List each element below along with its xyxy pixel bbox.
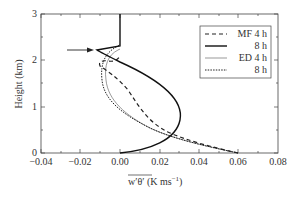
chart: −0.04 −0.02 0.00 0.02 0.04 0.06 0.08 0 1… bbox=[0, 0, 302, 197]
y-tick-label: 2 bbox=[32, 54, 37, 65]
y-tick-labels: 0 1 2 3 bbox=[32, 8, 37, 158]
x-tick-label: 0.00 bbox=[111, 156, 129, 167]
y-axis-label: Height (km) bbox=[13, 59, 25, 108]
legend: MF 4 h 8 h ED 4 h 8 h bbox=[200, 26, 271, 78]
x-tick-labels: −0.04 −0.02 0.00 0.02 0.04 0.06 0.08 bbox=[29, 156, 286, 167]
legend-label: 8 h bbox=[255, 40, 268, 51]
x-tick-label: 0.08 bbox=[269, 156, 287, 167]
legend-label: MF 4 h bbox=[238, 28, 267, 39]
y-tick-label: 0 bbox=[32, 147, 37, 158]
legend-label: 8 h bbox=[255, 64, 268, 75]
y-tick-label: 3 bbox=[32, 8, 37, 19]
x-tick-label: 0.04 bbox=[190, 156, 208, 167]
x-tick-label: −0.02 bbox=[68, 156, 91, 167]
x-tick-label: 0.06 bbox=[229, 156, 247, 167]
x-tick-label: 0.02 bbox=[151, 156, 169, 167]
legend-label: ED 4 h bbox=[239, 52, 267, 63]
x-axis-label-text: w′θ′ (K ms−1) bbox=[128, 175, 182, 188]
y-tick-label: 1 bbox=[32, 101, 37, 112]
x-axis-label: w′θ′ (K ms−1) bbox=[128, 175, 182, 188]
arrow-annotation bbox=[67, 48, 94, 53]
